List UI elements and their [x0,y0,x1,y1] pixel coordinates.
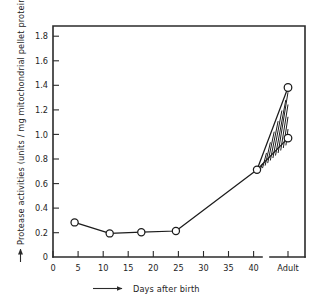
x-tick-label-5: 5 [75,263,80,273]
y-tick-label-1-8: 1.8 [35,31,48,41]
x-tick-label-adult: Adult [277,263,299,273]
x-tick-label-0: 0 [50,263,55,273]
y-axis-ticks [53,36,59,233]
x-axis-title-group: Days after birth [93,284,200,294]
data-point [284,134,292,142]
y-axis-title-group: Protease activities (units / mg mitochon… [16,0,26,262]
y-tick-label-1-2: 1.2 [35,105,48,115]
x-tick-label-25: 25 [173,263,183,273]
x-tick-label-15: 15 [123,263,133,273]
y-axis-tick-labels: 1.8 1.6 1.4 1.2 1.0 0.8 0.6 0.4 0.2 0 [35,31,48,262]
x-axis-ticks [53,251,288,257]
x-tick-label-10: 10 [98,263,108,273]
y-tick-label-0-8: 0.8 [35,154,48,164]
y-tick-label-0-2: 0.2 [35,228,48,238]
data-point [284,84,292,92]
y-tick-label-1-4: 1.4 [35,80,48,90]
y-tick-label-0-4: 0.4 [35,203,48,213]
x-tick-label-30: 30 [198,263,208,273]
x-axis-tick-labels: 0 5 10 15 20 25 30 35 40 Adult [50,263,299,273]
chart-figure: 1.8 1.6 1.4 1.2 1.0 0.8 0.6 0.4 0.2 0 [0,0,327,306]
y-axis-title: Protease activities (units / mg mitochon… [16,0,26,245]
y-tick-label-0: 0 [43,252,48,262]
data-point [71,219,78,226]
y-tick-label-0-6: 0.6 [35,179,48,189]
data-point-markers [71,84,292,237]
protease-activity-line-chart: 1.8 1.6 1.4 1.2 1.0 0.8 0.6 0.4 0.2 0 [0,0,327,306]
data-point [138,229,145,236]
data-point [253,166,260,173]
y-tick-label-1-6: 1.6 [35,56,48,66]
x-tick-label-40: 40 [248,263,258,273]
x-tick-label-20: 20 [148,263,158,273]
y-tick-label-1-0: 1.0 [35,130,48,140]
x-axis-title: Days after birth [133,284,200,294]
data-point [172,227,179,234]
data-point [106,230,113,237]
series-line-upper [75,88,288,234]
x-tick-label-35: 35 [223,263,233,273]
